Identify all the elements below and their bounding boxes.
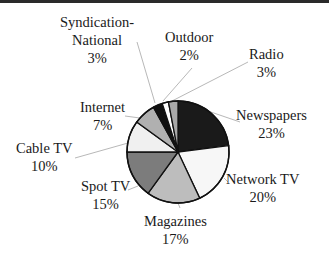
- label-network-tv: Network TV20%: [226, 170, 299, 206]
- label-spot-tv: Spot TV15%: [81, 177, 130, 213]
- leader-line: [163, 68, 192, 101]
- label-internet: Internet7%: [80, 98, 125, 134]
- leader-line: [125, 116, 140, 118]
- label-newspapers: Newspapers23%: [236, 106, 307, 142]
- leader-line: [178, 203, 180, 208]
- label-outdoor: Outdoor2%: [165, 28, 213, 64]
- label-syndication-national: Syndication-National3%: [60, 13, 134, 67]
- pie-slice-newspapers: [178, 101, 229, 152]
- label-radio: Radio3%: [249, 45, 284, 81]
- leader-line: [172, 62, 248, 101]
- leader-line: [75, 143, 128, 158]
- label-cable-tv: Cable TV10%: [16, 139, 73, 175]
- leader-line: [137, 42, 155, 103]
- label-magazines: Magazines17%: [144, 212, 207, 248]
